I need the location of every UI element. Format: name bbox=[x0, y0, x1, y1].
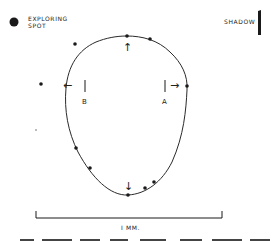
spot bbox=[88, 166, 92, 170]
spot bbox=[39, 82, 43, 86]
spot bbox=[74, 146, 78, 150]
marker-b-label: B bbox=[82, 98, 87, 106]
spot bbox=[126, 193, 130, 197]
shadow-label: SHADOW bbox=[224, 18, 255, 25]
spot bbox=[143, 186, 147, 190]
arrow-left-icon: ← bbox=[63, 79, 72, 92]
spot bbox=[125, 34, 129, 38]
spot bbox=[185, 84, 189, 88]
arrow-down-icon: ↓ bbox=[124, 180, 133, 193]
spot bbox=[73, 42, 77, 46]
scale-label: I MM. bbox=[121, 224, 140, 231]
scale-bar bbox=[36, 211, 222, 218]
arrow-up-icon: ↑ bbox=[123, 41, 132, 54]
marker-a-label: A bbox=[162, 98, 167, 106]
legend-label-line1: EXPLORING bbox=[28, 15, 68, 22]
exploring-diagram: EXPLORING SPOT SHADOW ↑ ↓ ← → B A I MM. bbox=[0, 0, 279, 241]
legend-spot-icon bbox=[10, 18, 19, 27]
outline-curve bbox=[66, 36, 188, 195]
spot bbox=[148, 37, 152, 41]
arrow-right-icon: → bbox=[170, 79, 179, 92]
spot bbox=[152, 180, 156, 184]
legend-label-line2: SPOT bbox=[28, 22, 46, 29]
shadow-bar-icon bbox=[258, 10, 261, 35]
